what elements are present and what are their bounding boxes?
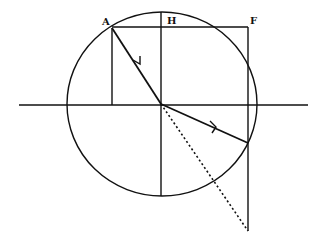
incident-ray	[112, 28, 161, 104]
label-h: H	[167, 15, 176, 26]
label-a: A	[101, 16, 110, 27]
label-f: F	[250, 15, 257, 26]
refraction-diagram: A H F	[0, 0, 320, 245]
